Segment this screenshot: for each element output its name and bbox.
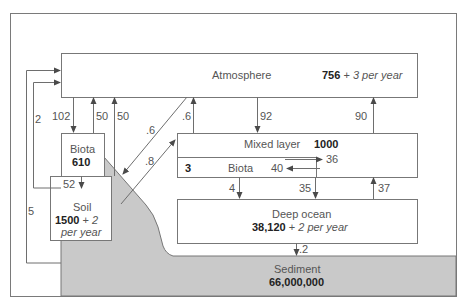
sediment-label: Sediment [274, 263, 320, 275]
carbon-cycle-diagram: Atmosphere 756 + 3 per year Biota 610 So… [0, 0, 468, 306]
flux-biota-to-atm: 50 [96, 110, 108, 122]
deep-ocean-plus: + [286, 221, 299, 233]
biota-loop-arrow [34, 83, 62, 189]
deep-ocean-label: Deep ocean [272, 208, 331, 220]
flux-mixed-to-deep: 35 [299, 182, 311, 194]
soil-amount: 1500 + 2 [55, 214, 98, 226]
flux-mixed-to-atm: 90 [355, 110, 367, 122]
flux-biota-loop: 2 [35, 113, 41, 125]
flux-sediment-loop: 5 [28, 205, 34, 217]
flux-biota-to-soil: 52 [63, 178, 75, 190]
flux-mixed-to-atm-small: .6 [182, 110, 191, 122]
soil-growth: 2 [92, 214, 98, 226]
land-biota-box [62, 134, 105, 177]
mixed-layer-label: Mixed layer [244, 138, 300, 150]
deep-ocean-growth: 2 per year [298, 221, 348, 233]
deep-ocean-amount: 38,120 + 2 per year [252, 221, 348, 233]
flux-biota-to-deep: 4 [229, 182, 235, 194]
flux-atm-to-land-diag: .6 [146, 124, 155, 136]
atmosphere-growth: 3 per year [353, 69, 403, 81]
flux-atm-to-biota: 102 [52, 110, 70, 122]
deep-ocean-value: 38,120 [252, 221, 286, 233]
soil-plus: + [79, 214, 92, 226]
ocean-biota-value: 3 [185, 162, 191, 174]
land-biota-label: Biota [70, 143, 95, 155]
land-to-mixed-diag-arrow [121, 140, 175, 204]
ocean-biota-label: Biota [228, 162, 253, 174]
atmosphere-amount: 756 + 3 per year [322, 69, 402, 81]
mixed-layer-value: 1000 [314, 138, 338, 150]
soil-label: Soil [73, 201, 91, 213]
soil-value: 1500 [55, 214, 79, 226]
atmosphere-plus: + [340, 69, 353, 81]
flux-deep-to-sediment: .2 [299, 243, 308, 255]
flux-soil-to-atm: 50 [117, 110, 129, 122]
flux-biota-to-mixed: 36 [326, 153, 338, 165]
atmosphere-value: 756 [322, 69, 340, 81]
flux-land-to-mixed-diag: .8 [145, 155, 154, 167]
atmosphere-label: Atmosphere [212, 69, 271, 81]
land-biota-value: 610 [72, 156, 90, 168]
flux-atm-to-mixed: 92 [260, 110, 272, 122]
flux-mixed-to-biota: 40 [271, 162, 283, 174]
soil-growth-unit: per year [61, 226, 101, 238]
flux-deep-to-mixed: 37 [378, 182, 390, 194]
sediment-value: 66,000,000 [269, 276, 324, 288]
